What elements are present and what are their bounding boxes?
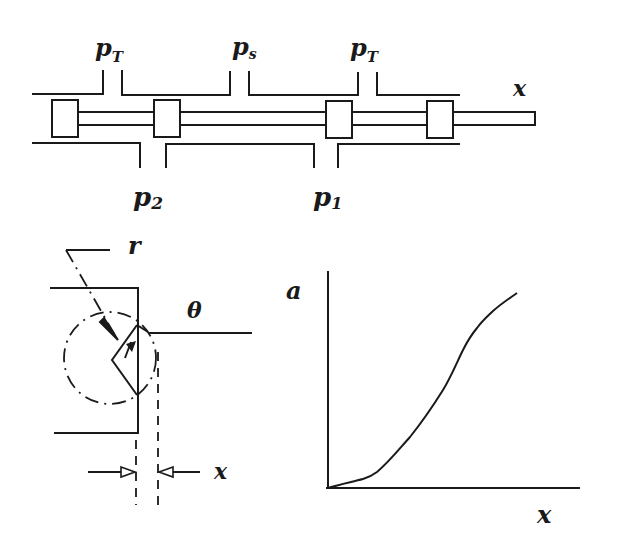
spool-land-2 — [154, 100, 180, 137]
spool-land-1 — [52, 100, 78, 137]
radius-label: r — [128, 231, 143, 260]
port-label-p1: p1 — [313, 182, 342, 213]
lower-housing-middle — [166, 144, 314, 168]
upper-housing-right — [377, 72, 460, 95]
spool-land-4 — [427, 101, 453, 138]
upper-housing-middle — [122, 70, 230, 95]
x-axis-label: x — [536, 500, 552, 529]
lower-housing-right — [338, 144, 460, 168]
spool-valve: pT ps pT p2 p1 x — [32, 32, 535, 213]
dimension-arrowhead-right-icon — [159, 467, 173, 477]
orifice-detail: r θ x — [50, 231, 252, 505]
spool-land-3 — [326, 101, 352, 138]
y-axis-label: a — [286, 276, 302, 305]
area-chart: a x — [286, 271, 580, 529]
angle-label: θ — [187, 297, 202, 323]
port-label-pT-left: pT — [95, 33, 125, 66]
port-label-pT-right: pT — [350, 33, 380, 66]
diagram-canvas: pT ps pT p2 p1 x r θ x — [0, 0, 618, 543]
port-label-ps: ps — [232, 32, 257, 62]
upper-housing-right-mid — [249, 71, 358, 95]
spool-displacement-label: x — [512, 75, 527, 101]
upper-housing-left — [32, 70, 103, 94]
port-label-p2: p2 — [133, 182, 163, 213]
radius-arrowhead-icon — [100, 318, 118, 340]
dimension-arrowhead-left-icon — [121, 467, 135, 477]
lower-housing-left — [32, 143, 140, 168]
spool-rod — [78, 112, 535, 125]
area-curve — [328, 293, 517, 488]
opening-label: x — [213, 458, 228, 484]
